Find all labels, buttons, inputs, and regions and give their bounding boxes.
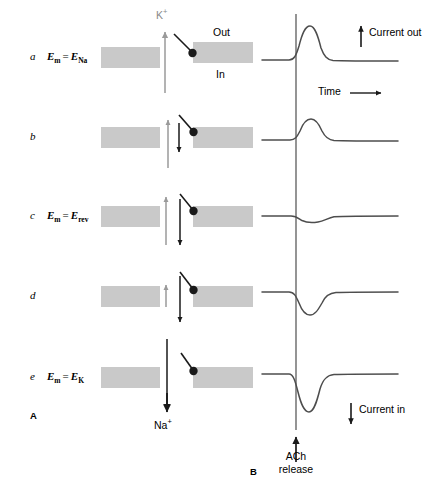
equation-row-e: Em=EK [47,370,84,385]
current-in-label: Current in [359,403,405,415]
equation-row-a-op: = [61,50,71,62]
row-letter-d: d [30,289,36,301]
row-letter-a: a [30,50,36,62]
membrane-row-d [101,286,253,307]
panel-b-letter: B [250,466,257,477]
na-ion-label: Na+ [154,417,172,431]
na-arrow-row-e [167,339,198,410]
membrane-row-c [101,206,253,227]
membrane-row-e [101,367,253,388]
panel-a-letter: A [30,410,37,421]
equation-row-e-rhs-sub: K [78,376,84,385]
membrane-row-b [101,127,253,148]
current-out-label: Current out [369,26,422,38]
current-trace-b [262,119,398,141]
equation-row-a: Em=ENa [47,50,87,65]
ach-release-label-line1: ACh [286,450,306,462]
ach-release-label: ACh release [272,450,320,476]
equation-row-e-lhs-sub: m [54,376,60,385]
equation-row-a-rhs-sub: Na [78,56,87,65]
membrane-row-a [101,42,253,68]
current-trace-c [262,216,398,223]
current-trace-d [262,292,398,315]
row-letter-e: e [30,370,35,382]
equation-row-a-lhs-sub: m [54,56,60,65]
figure-container: a b c d e Em=ENa Em=Erev Em=EK K+ Na+ Ou… [0,0,445,488]
row-letter-b: b [30,130,36,142]
out-label: Out [213,26,230,38]
time-label: Time [318,85,341,97]
equation-row-c-rhs-sub: rev [78,215,88,224]
equation-row-e-op: = [61,370,71,382]
equation-row-c: Em=Erev [47,209,88,224]
equation-row-c-op: = [61,209,71,221]
in-label: In [216,68,225,80]
row-letter-c: c [30,209,35,221]
equation-row-c-lhs-sub: m [54,215,60,224]
k-ion-label: K+ [156,7,167,21]
ach-release-label-line2: release [279,463,313,475]
